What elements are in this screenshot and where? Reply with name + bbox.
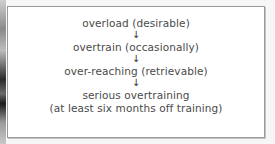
page: overload (desirable) ↓ overtrain (occasi… [0,0,275,144]
page-edge-shadow [0,0,6,144]
arrow-down-icon: ↓ [8,54,264,64]
flow-diagram: overload (desirable) ↓ overtrain (occasi… [8,17,264,115]
flow-diagram-box: overload (desirable) ↓ overtrain (occasi… [7,6,265,138]
step-serious-overtraining: serious overtraining [8,89,264,102]
arrow-down-icon: ↓ [8,30,264,40]
arrow-down-icon: ↓ [8,78,264,88]
step-serious-overtraining-note: (at least six months off training) [8,102,264,115]
